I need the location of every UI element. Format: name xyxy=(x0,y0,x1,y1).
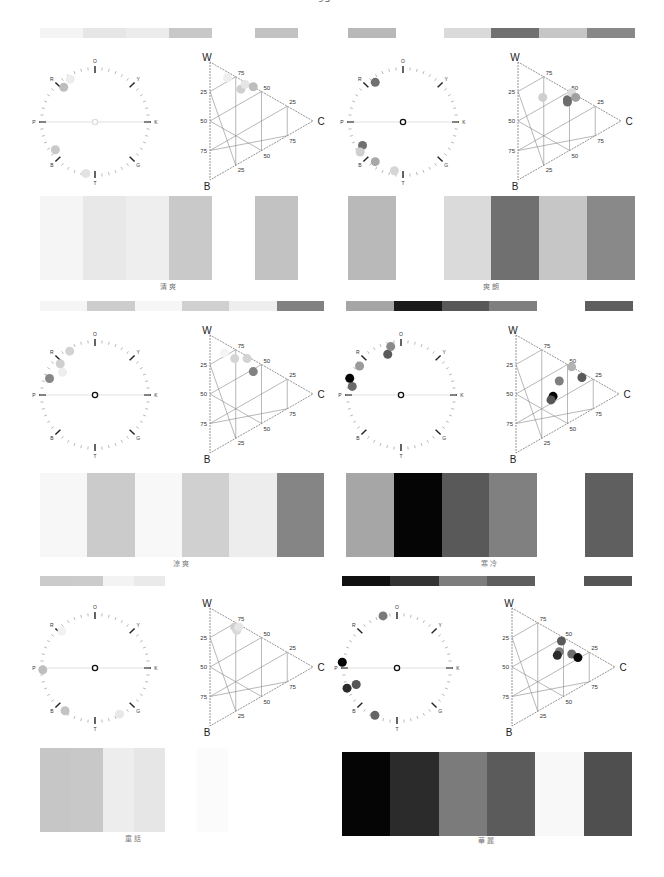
strip-swatch xyxy=(489,301,537,311)
ternary-point xyxy=(223,73,232,82)
hue-label: G xyxy=(136,162,140,168)
strip-swatch xyxy=(585,301,633,311)
hue-point xyxy=(383,350,392,359)
svg-text:50: 50 xyxy=(200,391,207,397)
strip-swatch xyxy=(587,28,635,38)
hue-label: O xyxy=(93,604,97,610)
svg-text:75: 75 xyxy=(238,616,245,622)
hue-wheel: OYKGTBPR xyxy=(331,325,471,465)
svg-text:25: 25 xyxy=(595,372,602,378)
hue-label: P xyxy=(32,665,36,671)
hue-point xyxy=(370,711,379,720)
hue-label: B xyxy=(358,162,362,168)
ternary-plot: 257525505050752575WBC xyxy=(497,598,637,738)
hue-label: T xyxy=(93,726,96,732)
color-swatch xyxy=(135,473,182,557)
ternary-plot: 257525505050752575WBC xyxy=(195,325,335,465)
hue-label: O xyxy=(93,331,97,337)
svg-text:75: 75 xyxy=(502,694,509,700)
ternary-point xyxy=(577,373,586,382)
color-swatch xyxy=(165,748,196,832)
color-swatch xyxy=(87,473,134,557)
strip-swatch xyxy=(396,28,444,38)
svg-text:B: B xyxy=(204,181,211,192)
hue-label: T xyxy=(399,453,402,459)
strip-swatch xyxy=(348,28,396,38)
color-strip xyxy=(342,576,632,586)
hue-point xyxy=(343,684,352,693)
color-swatch xyxy=(255,196,298,280)
svg-text:C: C xyxy=(625,116,632,127)
svg-text:50: 50 xyxy=(566,631,573,637)
color-swatch xyxy=(442,473,490,557)
hue-label: G xyxy=(136,708,140,714)
ternary-point xyxy=(220,348,229,357)
ternary-point xyxy=(230,354,239,363)
hue-point xyxy=(348,382,357,391)
hue-label: R xyxy=(50,622,54,628)
hue-point xyxy=(371,157,380,166)
svg-text:25: 25 xyxy=(506,362,513,368)
ternary-point xyxy=(563,95,572,104)
svg-text:75: 75 xyxy=(506,421,513,427)
svg-text:B: B xyxy=(512,181,519,192)
hue-point xyxy=(352,680,361,689)
strip-swatch xyxy=(126,28,169,38)
palette-panel: OYKGTBPR257525505050752575WBC童話 xyxy=(0,0,664,877)
hue-point xyxy=(58,368,67,377)
palette-caption: 華麗 xyxy=(342,835,632,845)
hue-label: O xyxy=(93,58,97,64)
strip-swatch xyxy=(491,28,539,38)
hue-label: K xyxy=(154,392,158,398)
strip-swatch xyxy=(229,301,276,311)
hue-point xyxy=(61,706,70,715)
swatch-row xyxy=(342,752,632,836)
hue-label: P xyxy=(334,665,338,671)
svg-text:50: 50 xyxy=(264,358,271,364)
ternary-point xyxy=(236,85,245,94)
ternary-point xyxy=(249,367,258,376)
svg-text:50: 50 xyxy=(570,358,577,364)
hue-wheel: OYKGTBPR xyxy=(25,52,165,192)
hue-label: T xyxy=(395,726,398,732)
ternary-point xyxy=(547,395,556,404)
strip-swatch xyxy=(439,576,487,586)
swatch-row xyxy=(348,196,635,280)
hue-point xyxy=(38,665,47,674)
svg-text:50: 50 xyxy=(264,699,271,705)
strip-swatch xyxy=(346,301,394,311)
strip-swatch xyxy=(169,28,212,38)
hue-point xyxy=(56,359,65,368)
hue-point xyxy=(390,166,399,175)
color-strip xyxy=(40,28,298,38)
strip-swatch xyxy=(539,28,587,38)
svg-text:W: W xyxy=(510,52,520,63)
svg-text:C: C xyxy=(623,389,630,400)
hue-point xyxy=(345,374,354,383)
palette-panel: OYKGTBPR257525505050752575WBC寒冷 xyxy=(0,0,664,877)
svg-text:25: 25 xyxy=(200,362,207,368)
hue-label: R xyxy=(358,76,362,82)
svg-text:25: 25 xyxy=(540,713,547,719)
svg-text:W: W xyxy=(202,598,212,609)
palette-caption: 寒冷 xyxy=(346,558,633,568)
strip-swatch xyxy=(212,28,255,38)
ternary-point xyxy=(555,647,564,656)
strip-swatch xyxy=(537,301,585,311)
svg-text:75: 75 xyxy=(544,343,551,349)
ternary-point xyxy=(563,98,572,107)
ternary-point xyxy=(230,622,239,631)
svg-text:75: 75 xyxy=(546,70,553,76)
palette-panel: OYKGTBPR257525505050752575WBC清爽 xyxy=(0,0,664,877)
hue-point xyxy=(371,78,380,87)
ternary-point xyxy=(557,637,566,646)
svg-text:C: C xyxy=(317,389,324,400)
color-swatch xyxy=(390,752,438,836)
ternary-point xyxy=(555,377,564,386)
svg-text:25: 25 xyxy=(502,635,509,641)
color-swatch xyxy=(587,196,635,280)
ternary-plot: 257525505050752575WBC xyxy=(503,52,643,192)
svg-text:75: 75 xyxy=(289,411,296,417)
hue-label: R xyxy=(356,349,360,355)
svg-text:50: 50 xyxy=(264,85,271,91)
